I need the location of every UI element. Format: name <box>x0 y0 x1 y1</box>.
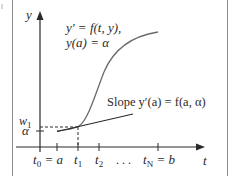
t0-label: t0 = a <box>33 153 63 166</box>
tangent-line <box>57 114 133 132</box>
slope-label: Slope y′(a) = f(a, α) <box>107 96 206 109</box>
t1-label: t1 <box>74 153 82 166</box>
initial-condition: y(a) = α <box>66 36 109 49</box>
ellipsis-label: . . . <box>116 154 131 166</box>
y-axis-arrow-icon <box>37 11 44 20</box>
t2-label: t2 <box>95 153 103 166</box>
x-axis-arrow-icon <box>196 144 205 151</box>
y-axis-label: y <box>26 8 32 21</box>
tN-label: tN = b <box>143 153 175 166</box>
cutoff-mark <box>1 4 3 9</box>
alpha-label: α <box>22 124 29 137</box>
x-axis-label: t <box>203 154 207 167</box>
ode-equation: y′ = f(t, y), <box>66 21 121 34</box>
diagram-frame: y t y′ = f(t, y), y(a) = α Slope y′(a) =… <box>0 0 229 176</box>
